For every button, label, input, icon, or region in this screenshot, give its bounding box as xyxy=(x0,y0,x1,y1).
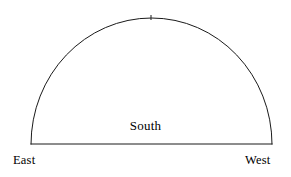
label-south: South xyxy=(0,119,291,132)
label-west: West xyxy=(245,154,270,167)
dome-shape xyxy=(0,0,291,177)
diagram-canvas: South East West xyxy=(0,0,291,177)
label-east: East xyxy=(13,154,35,167)
